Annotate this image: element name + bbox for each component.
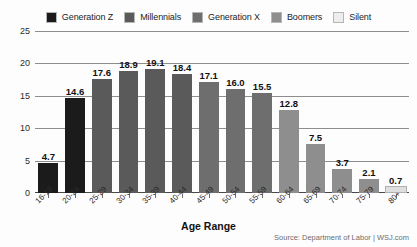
bar-chart: Generation ZMillennialsGeneration XBoome… (0, 0, 417, 247)
bar-slot: 19.1 (142, 31, 169, 193)
bar-value-label: 3.7 (336, 158, 349, 168)
chart-legend: Generation ZMillennialsGeneration XBoome… (0, 9, 417, 25)
bar-slot: 17.6 (88, 31, 115, 193)
bar-slot: 2.1 (356, 31, 383, 193)
bar[interactable]: 12.8 (279, 110, 299, 193)
legend-item[interactable]: Millennials (124, 12, 181, 23)
bar-value-label: 15.5 (253, 82, 272, 92)
bar-value-label: 16.0 (226, 78, 245, 88)
bar-slot: 15.5 (249, 31, 276, 193)
bar-slot: 4.7 (35, 31, 62, 193)
bar-value-label: 18.9 (119, 60, 138, 70)
bar[interactable]: 18.4 (172, 74, 192, 193)
bar-value-label: 14.6 (66, 87, 85, 97)
bar-slot: 18.9 (115, 31, 142, 193)
bar-value-label: 2.1 (362, 168, 375, 178)
bar-value-label: 12.8 (280, 99, 299, 109)
bar[interactable]: 16.0 (226, 89, 246, 193)
bar-slot: 14.6 (62, 31, 89, 193)
bar-slot: 16.0 (222, 31, 249, 193)
y-axis-tick-label: 10 (0, 124, 30, 133)
legend-item[interactable]: Silent (333, 12, 371, 23)
bar[interactable]: 17.1 (199, 82, 219, 193)
bar-slot: 0.7 (382, 31, 409, 193)
legend-label: Generation X (208, 12, 260, 22)
bar-value-label: 18.4 (173, 63, 192, 73)
legend-swatch-icon (333, 12, 344, 23)
legend-swatch-icon (192, 12, 203, 23)
y-axis-tick-label: 0 (0, 189, 30, 198)
y-axis-tick-label: 25 (0, 27, 30, 36)
bar-series: 4.714.617.618.919.118.417.116.015.512.87… (35, 31, 409, 193)
legend-swatch-icon (271, 12, 282, 23)
y-axis-tick-label: 15 (0, 91, 30, 100)
legend-label: Millennials (140, 12, 181, 22)
legend-item[interactable]: Generation X (192, 12, 260, 23)
bar[interactable]: 17.6 (92, 79, 112, 193)
bar-slot: 18.4 (169, 31, 196, 193)
legend-label: Generation Z (62, 12, 113, 22)
legend-item[interactable]: Generation Z (46, 12, 113, 23)
bar-value-label: 17.6 (93, 68, 112, 78)
bar[interactable]: 19.1 (145, 69, 165, 193)
source-note: Source: Department of Labor | WSJ.com (274, 233, 409, 242)
legend-swatch-icon (124, 12, 135, 23)
bar[interactable]: 18.9 (119, 71, 139, 193)
bar-slot: 7.5 (302, 31, 329, 193)
bar-slot: 3.7 (329, 31, 356, 193)
legend-label: Silent (349, 12, 371, 22)
x-axis-title: Age Range (0, 220, 417, 232)
bar-value-label: 17.1 (199, 71, 218, 81)
bar-slot: 12.8 (275, 31, 302, 193)
bar-slot: 17.1 (195, 31, 222, 193)
bar-value-label: 0.7 (389, 176, 402, 186)
legend-label: Boomers (287, 12, 322, 22)
bar-value-label: 4.7 (42, 152, 55, 162)
bar[interactable]: 14.6 (65, 98, 85, 193)
legend-swatch-icon (46, 12, 57, 23)
bar-value-label: 7.5 (309, 133, 322, 143)
bar[interactable]: 15.5 (252, 93, 272, 193)
legend-item[interactable]: Boomers (271, 12, 322, 23)
y-axis-tick-label: 20 (0, 59, 30, 68)
y-axis-tick-label: 5 (0, 156, 30, 165)
bar-value-label: 19.1 (146, 58, 165, 68)
